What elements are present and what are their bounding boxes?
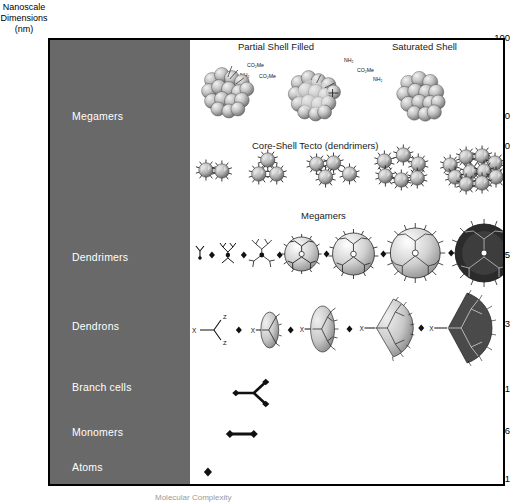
axis-title-line-2: Dimensions [0,13,48,24]
bottom-caption-strip: Molecular Complexity [0,494,518,503]
branch-cell-unit [232,379,269,407]
bottom-caption: Molecular Complexity [155,494,231,502]
tecto-cluster-3 [249,150,287,185]
dendron-connector-0 [236,327,242,334]
dendrimer-g2 [249,239,275,267]
axis-tick-1: 1 [505,383,510,394]
dendrimer-connector-3 [324,251,330,258]
label-saturated-shell: Saturated Shell [392,41,457,52]
dendron-connector-3 [418,325,424,332]
plot-area: Partial Shell Filled Saturated Shell Cor… [190,40,503,484]
dendron-x-label-3: X [359,325,364,332]
label-core-shell-tecto: Core-Shell Tecto (dendrimers) [252,140,379,151]
dendrimer-connector-0 [209,252,215,259]
row-dendrimers [196,219,503,287]
chem-label-nh2-3: NH₂ [373,76,383,82]
axis-tick-3: 3 [505,318,510,329]
dendrimer-g6 [450,219,503,287]
diagram-graphics: X Z Z X [190,40,503,484]
label-megamers-row: Megamers [301,210,346,221]
dendron-g4: X [429,290,496,366]
axis-tick-5: 5 [505,249,510,260]
megamer-model-partial-shell-b [288,71,340,121]
category-label-dendrimers: Dendrimers [72,251,128,263]
axis-title-line-1: Nanoscale [0,2,48,13]
category-sidebar: Megamers Dendrimers Dendrons Branch cell… [50,40,190,484]
dendrimer-g1 [220,243,236,263]
dendron-g0-schematic: X Z Z [192,314,227,346]
dendron-z-label-top: Z [223,314,227,320]
category-label-megamers: Megamers [72,110,123,122]
chem-label-nh2-2: NH₂ [344,57,354,63]
dendron-g3: X [359,297,414,361]
dendron-x-label-1: X [251,327,256,334]
tecto-cluster-7 [374,145,428,191]
category-label-branch-cells: Branch cells [72,381,132,393]
row-dendrons: X Z Z X [192,290,496,366]
category-label-dendrons: Dendrons [72,320,119,332]
dendrimer-connector-1 [241,252,247,259]
dendrimer-g4 [329,229,379,279]
dendrimer-connector-2 [277,252,283,259]
dendron-g2: X [300,306,339,352]
dendrimer-connector-4 [380,251,386,258]
tecto-cluster-4 [307,153,360,188]
dendron-x-label-2: X [300,326,305,333]
monomer-unit [226,430,258,438]
megamer-model-saturated-shell [397,71,445,121]
dendron-x-label-4: X [429,325,434,332]
dendron-z-label-bottom: Z [223,340,227,346]
dendrimer-g5 [385,223,445,283]
chem-label-nh2-1: NH₂ [240,72,250,78]
tecto-cluster-2 [196,160,232,182]
atom-unit [204,467,212,476]
category-label-atoms: Atoms [72,461,103,473]
dendron-connector-1 [288,327,294,334]
axis-title: Nanoscale Dimensions (nm) [0,2,48,35]
row-megamers-models [202,66,446,121]
label-partial-shell-filled: Partial Shell Filled [238,41,314,52]
dendron-g1: X [251,312,282,348]
chem-label-co2me-2: CO₂Me [259,73,276,79]
dendron-connector-2 [347,326,353,333]
tecto-cluster-12 [440,146,503,195]
dendrimer-g3 [282,234,322,274]
chem-label-co2me-3: CO₂Me [357,67,374,73]
row-core-shell-tecto-clusters [196,145,503,195]
chem-label-co2me-1: CO₂Me [247,62,264,68]
axis-title-line-3: (nm) [0,24,48,35]
category-label-monomers: Monomers [72,426,123,438]
chart-frame: Megamers Dendrimers Dendrons Branch cell… [48,38,505,486]
dendrimer-g0 [196,246,204,260]
dendron-x-label-0: X [192,327,197,334]
dendrimer-connector-5 [448,250,454,257]
